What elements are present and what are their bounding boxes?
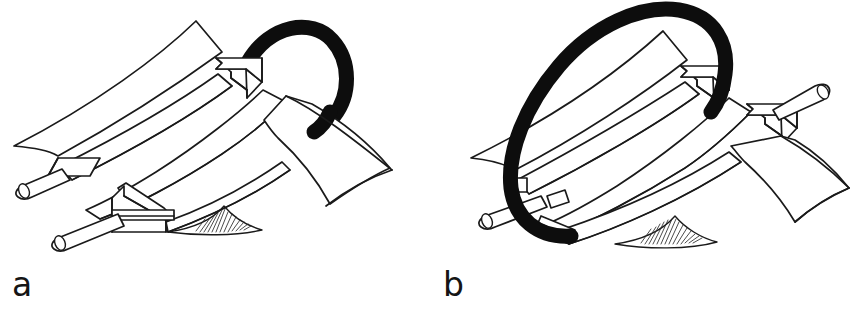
- figure-root: a: [0, 0, 858, 309]
- axis-rod-lower-a: [52, 214, 124, 252]
- axis-rod-right-b: [773, 83, 831, 120]
- support-bar-lower-a: [112, 210, 174, 220]
- strand-arrow-lower-a: [112, 162, 290, 232]
- panel-a-drawing: [0, 0, 429, 309]
- panel-label-b: b: [443, 268, 464, 301]
- panel-b: b: [429, 0, 858, 309]
- panel-a: a: [0, 0, 429, 309]
- sheet-surface-lower-right-b: [731, 136, 849, 222]
- panel-label-a: a: [12, 268, 32, 301]
- panel-b-drawing: [429, 0, 858, 309]
- axis-rod-mid-b: [547, 190, 569, 208]
- axis-rod-upper-a: [16, 169, 70, 200]
